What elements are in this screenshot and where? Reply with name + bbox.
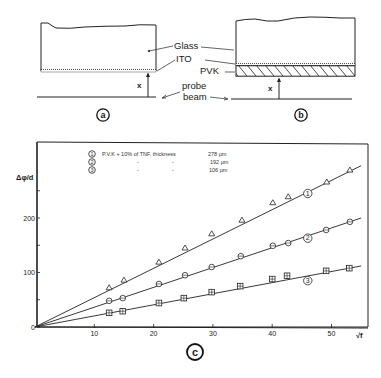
- data-point-circle: [106, 298, 112, 304]
- svg-text:-: -: [172, 167, 174, 173]
- pvk-label: PVK: [200, 65, 220, 76]
- fit-line: [35, 218, 361, 327]
- glass-block-b: [236, 17, 355, 65]
- data-point-square-cross: [181, 295, 187, 301]
- data-point-square-cross: [346, 265, 352, 271]
- distance-arrow-b: [277, 78, 281, 100]
- data-point-triangle: [239, 217, 245, 222]
- data-point-circle: [270, 243, 276, 249]
- x-tick-label: 10: [90, 330, 98, 337]
- data-point-square-cross: [237, 283, 243, 289]
- data-point-square-cross: [106, 310, 112, 316]
- svg-text:-: -: [172, 159, 174, 165]
- y-tick-label: 200: [23, 215, 35, 222]
- distance-label-a: x: [137, 81, 142, 90]
- y-axis-label: Δφ/d: [16, 173, 34, 182]
- data-point-square-cross: [120, 308, 126, 314]
- probe-label: probe: [182, 80, 206, 91]
- legend-value: 106 µm: [209, 167, 228, 173]
- data-point-triangle: [106, 285, 112, 290]
- data-point-circle: [182, 272, 188, 278]
- data-point-circle: [209, 264, 215, 270]
- data-point-circle: [238, 253, 244, 259]
- x-tick-label: 50: [328, 330, 336, 337]
- svg-text:3: 3: [306, 277, 310, 284]
- pvk-layer-b: [236, 66, 355, 77]
- data-point-triangle: [270, 200, 276, 205]
- fit-line: [35, 266, 361, 327]
- curve-label-3: 3: [304, 276, 312, 284]
- legend-row-2: 2 - - 192 µm: [89, 159, 229, 166]
- panel-label-b: b: [298, 110, 304, 120]
- series-3: [35, 265, 361, 327]
- svg-text:2: 2: [306, 234, 310, 241]
- data-point-triangle: [121, 277, 127, 282]
- x-tick-label: 40: [268, 330, 276, 337]
- data-point-triangle: [285, 194, 291, 199]
- legend-text: P.V.K + 10% of TNF, thickness: [102, 151, 176, 157]
- glass-block-a: [41, 23, 156, 71]
- distance-arrow-a: [146, 73, 150, 98]
- x-ticks: 1020304050: [90, 324, 335, 337]
- data-point-triangle: [182, 245, 188, 250]
- data-point-circle: [285, 240, 291, 246]
- glass-label: Glass: [174, 40, 199, 51]
- data-point-circle: [156, 281, 162, 287]
- distance-label-b: x: [268, 84, 273, 93]
- chart-frame: [37, 142, 368, 327]
- svg-text:1: 1: [306, 190, 310, 197]
- diagram-b: x b: [231, 17, 355, 121]
- curve-label-1: 1: [304, 189, 312, 197]
- svg-text:3: 3: [90, 167, 93, 173]
- legend: 1 P.V.K + 10% of TNF, thickness 278 µm 2…: [89, 151, 229, 174]
- curve-label-2: 2: [304, 234, 312, 242]
- svg-text:-: -: [137, 159, 139, 165]
- data-point-circle: [347, 219, 353, 225]
- legend-row-1: 1 P.V.K + 10% of TNF, thickness 278 µm: [89, 151, 227, 158]
- data-point-square-cross: [209, 289, 215, 295]
- legend-row-3: 3 - - 106 µm: [89, 167, 228, 174]
- diagram-a: x Glass ITO PVK probe beam: [37, 23, 238, 121]
- svg-text:1: 1: [90, 151, 93, 157]
- fit-line: [35, 166, 361, 327]
- panel-label-a: a: [100, 110, 106, 120]
- chart: 1020304050 0100200 Δφ/d √f 1 P.V.K + 10%…: [16, 142, 368, 360]
- data-point-triangle: [209, 231, 215, 236]
- series-2: [35, 218, 361, 327]
- svg-text:-: -: [137, 167, 139, 173]
- series-1: [35, 166, 361, 327]
- data-point-square-cross: [269, 276, 275, 282]
- data-point-triangle: [156, 259, 162, 264]
- ito-label: ITO: [176, 53, 192, 64]
- svg-text:2: 2: [90, 159, 93, 165]
- legend-value: 192 µm: [210, 159, 229, 165]
- y-tick-label: 0: [31, 324, 35, 331]
- data-point-square-cross: [284, 273, 290, 279]
- data-point-square-cross: [323, 268, 329, 274]
- series-layer: 123: [35, 166, 361, 327]
- data-point-triangle: [347, 167, 353, 172]
- x-tick-label: 30: [209, 330, 217, 337]
- data-point-square-cross: [156, 300, 162, 306]
- panel-label-c: c: [192, 346, 198, 358]
- legend-value: 278 µm: [208, 151, 227, 157]
- figure: x Glass ITO PVK probe beam: [0, 0, 381, 378]
- data-point-circle: [120, 295, 126, 301]
- x-tick-label: 20: [150, 330, 158, 337]
- ito-layer-a: [41, 70, 156, 73]
- data-point-circle: [323, 227, 329, 233]
- y-tick-label: 100: [23, 269, 35, 276]
- beam-label: beam: [183, 91, 207, 102]
- x-axis-label: √f: [356, 331, 363, 340]
